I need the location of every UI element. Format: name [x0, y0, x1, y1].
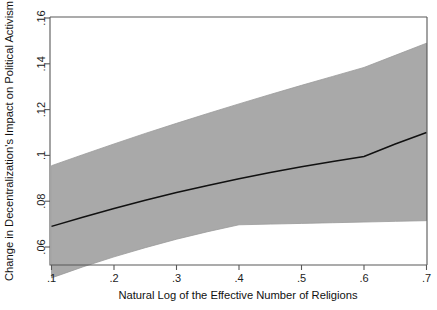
x-axis-title: Natural Log of the Effective Number of R…: [118, 289, 358, 301]
y-axis-tick-label: .14: [35, 56, 47, 71]
y-axis-tick-label: .06: [35, 239, 47, 254]
y-axis-tick-label: .1: [35, 151, 47, 160]
x-axis-tick-label: .1: [47, 272, 56, 284]
marginal-effect-plot: .06.08.1.12.14.16 .1.2.3.4.5.6.7 Natural…: [0, 0, 437, 310]
x-axis-tick-label: .5: [297, 272, 306, 284]
x-axis-tick-label: .2: [109, 272, 118, 284]
x-axis-tick-label: .7: [422, 272, 431, 284]
y-axis-title: Change in Decentralization's Impact on P…: [3, 1, 15, 281]
x-axis-tick-label: .4: [234, 272, 243, 284]
y-axis-tick-label: .16: [35, 10, 47, 25]
chart-figure: .06.08.1.12.14.16 .1.2.3.4.5.6.7 Natural…: [0, 0, 437, 310]
x-axis-tick-label: .6: [359, 272, 368, 284]
x-axis-tick-label: .3: [172, 272, 181, 284]
y-axis-tick-label: .12: [35, 102, 47, 117]
y-axis-tick-label: .08: [35, 194, 47, 209]
